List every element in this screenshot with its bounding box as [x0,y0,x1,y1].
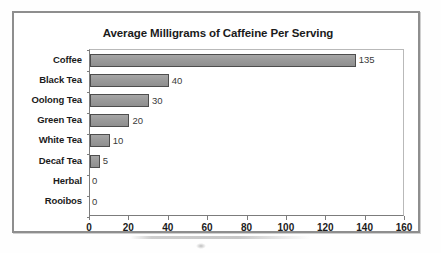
category-axis: CoffeeBlack TeaOolong TeaGreen TeaWhite … [14,49,87,216]
bar-value-label: 135 [359,55,375,65]
category-label-row: Green Tea [14,110,87,130]
category-label-row: Black Tea [14,69,87,89]
x-axis-tick [207,216,208,220]
bar-row: 135 [90,50,403,70]
chart-title: Average Milligrams of Caffeine Per Servi… [14,27,422,39]
bar-row: 10 [90,131,403,151]
bar-value-label: 10 [113,136,124,146]
category-label-row: Herbal [14,170,87,190]
category-label-row: Decaf Tea [14,150,87,170]
bar-value-label: 5 [103,156,108,166]
plot-area: 13540302010500 [89,49,404,216]
x-axis-tick-label: 160 [396,222,413,233]
bar [90,134,110,147]
x-axis-tick-label: 0 [86,222,92,233]
x-axis-tick [247,216,248,220]
category-label: Oolong Tea [31,94,82,105]
bar [90,94,149,107]
bar-value-label: 0 [92,197,97,207]
x-axis-tick [365,216,366,220]
bar [90,74,169,87]
y-axis-tick [87,196,90,197]
y-axis-tick [87,175,90,176]
bar-value-label: 20 [132,116,143,126]
x-axis-tick-label: 140 [356,222,373,233]
category-label: Green Tea [37,114,82,125]
scanned-page-background: Average Milligrams of Caffeine Per Servi… [0,0,441,253]
bar [90,54,356,67]
y-axis-tick [87,154,90,155]
x-axis-tick-label: 40 [162,222,173,233]
category-label-row: White Tea [14,130,87,150]
bar-value-label: 0 [92,176,97,186]
x-axis-tick [128,216,129,220]
x-axis-tick [286,216,287,220]
bar-row: 30 [90,90,403,110]
y-axis-tick [87,92,90,93]
bar-row: 20 [90,111,403,131]
bar-row: 5 [90,151,403,171]
y-axis-tick [87,71,90,72]
x-axis-tick-label: 20 [123,222,134,233]
category-label: White Tea [39,134,82,145]
y-axis-tick [87,134,90,135]
x-axis: 020406080100120140160 [89,216,404,242]
y-axis-tick [87,113,90,114]
category-label: Decaf Tea [39,155,82,166]
category-label-row: Rooibos [14,190,87,210]
x-axis-tick-label: 60 [202,222,213,233]
y-axis-tick [87,50,90,51]
chart-frame: Average Milligrams of Caffeine Per Servi… [12,11,420,233]
x-axis-tick-label: 80 [241,222,252,233]
category-label: Herbal [53,175,82,186]
x-axis-tick [404,216,405,220]
category-label: Coffee [53,54,82,65]
x-axis-tick-label: 120 [317,222,334,233]
bar-value-label: 30 [152,96,163,106]
bar [90,155,100,168]
bar-row: 40 [90,70,403,90]
x-axis-tick [325,216,326,220]
category-label-row: Oolong Tea [14,89,87,109]
category-label-row: Coffee [14,49,87,69]
x-axis-tick [89,216,90,220]
bar-row: 0 [90,191,403,211]
category-label: Black Tea [39,74,82,85]
bars-layer: 13540302010500 [90,50,403,215]
x-axis-tick [168,216,169,220]
scan-artifact-bottom-smudge [196,243,206,249]
bar [90,114,129,127]
category-label: Rooibos [45,195,82,206]
x-axis-tick-label: 100 [278,222,295,233]
bar-value-label: 40 [172,76,183,86]
bar-row: 0 [90,171,403,191]
